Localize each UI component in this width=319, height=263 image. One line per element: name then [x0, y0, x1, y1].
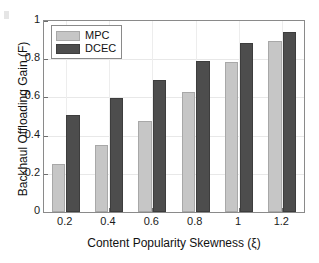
y-axis-tick-mark: [44, 97, 48, 98]
bar-dcec-0.6: [153, 80, 166, 212]
legend-swatch-mpc: [56, 31, 80, 41]
bar-mpc-0.6: [138, 121, 151, 212]
y-axis-tick-mark: [44, 174, 48, 175]
gridline-horizontal: [44, 97, 304, 98]
bar-dcec-0.8: [196, 61, 209, 212]
x-tick-label: 0.6: [144, 216, 159, 227]
bar-dcec-1.2: [283, 32, 296, 213]
y-tick-label: 1: [34, 14, 40, 25]
bar-dcec-0.4: [110, 98, 123, 212]
bar-mpc-0.8: [182, 92, 195, 212]
legend-swatch-dcec: [56, 44, 80, 54]
gridline-horizontal: [44, 59, 304, 60]
bar-mpc-1: [225, 62, 238, 212]
legend-item-mpc: MPC: [56, 29, 116, 42]
legend-label-dcec: DCEC: [85, 43, 116, 54]
x-tick-label: 1.2: [274, 216, 289, 227]
bar-mpc-1.2: [268, 41, 281, 212]
x-tick-label: 1: [235, 216, 241, 227]
bar-mpc-0.4: [95, 145, 108, 212]
legend-item-dcec: DCEC: [56, 42, 116, 55]
bar-dcec-0.2: [66, 115, 79, 212]
y-axis-tick-mark: [44, 136, 48, 137]
bar-chart-figure: 00.20.40.60.81 0.20.40.60.811.2 Content …: [0, 0, 319, 263]
x-tick-label: 0.8: [187, 216, 202, 227]
y-tick-label: 0: [34, 205, 40, 216]
x-tick-label: 0.2: [57, 216, 72, 227]
bar-mpc-0.2: [52, 164, 65, 212]
legend-label-mpc: MPC: [85, 30, 109, 41]
bar-dcec-1: [240, 43, 253, 212]
x-tick-label: 0.4: [100, 216, 115, 227]
gridline-horizontal: [44, 136, 304, 137]
y-axis-tick-mark: [44, 21, 48, 22]
x-axis-title: Content Popularity Skewness (ξ): [43, 236, 305, 250]
chart-legend: MPC DCEC: [51, 25, 122, 59]
y-axis-tick-mark: [44, 59, 48, 60]
scan-artifact: [4, 11, 9, 19]
gridline-horizontal: [44, 174, 304, 175]
y-axis-title: Backhaul Offloading Gain (F): [16, 19, 30, 219]
